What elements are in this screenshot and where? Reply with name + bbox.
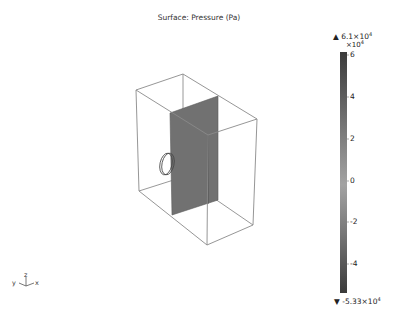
colorbar-tick: 6 bbox=[350, 51, 355, 59]
colorbar-tick: 0 bbox=[350, 177, 355, 185]
3d-plot-area[interactable]: z x y bbox=[0, 0, 398, 319]
axis-y-label: y bbox=[12, 279, 16, 287]
colorbar bbox=[340, 52, 347, 293]
colorbar-max-label: ▲ 6.1×104 bbox=[333, 32, 372, 41]
min-marker-icon: ▼ bbox=[334, 297, 340, 306]
colorbar-min-label: ▼ -5.33×104 bbox=[334, 297, 381, 306]
colorbar-tick: 4 bbox=[350, 93, 355, 101]
axis-x-label: x bbox=[35, 279, 39, 287]
axis-z-label: z bbox=[24, 271, 28, 279]
pressure-cut-plane bbox=[170, 96, 218, 215]
colorbar-multiplier: ×104 bbox=[346, 41, 364, 49]
colorbar-tick: -2 bbox=[350, 218, 357, 226]
colorbar-tick: 2 bbox=[350, 135, 355, 143]
max-marker-icon: ▲ bbox=[333, 32, 339, 41]
colorbar-tick: -4 bbox=[350, 260, 357, 268]
